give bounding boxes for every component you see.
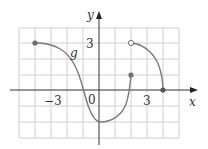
x-tick-label-neg3: −3 — [44, 94, 62, 108]
x-axis-label: x — [189, 95, 196, 109]
y-axis-arrow-icon — [96, 11, 102, 19]
function-graph: y x g 3 −3 0 3 — [0, 0, 208, 149]
x-axis-arrow-icon — [190, 87, 198, 93]
x-tick-label-3: 3 — [143, 94, 151, 108]
y-tick-label-3: 3 — [86, 37, 94, 51]
y-axis-label: y — [86, 8, 94, 22]
closed-endpoint-dot — [128, 72, 133, 77]
axes — [10, 16, 193, 145]
open-endpoint-dot — [128, 40, 133, 45]
closed-endpoint-dot — [32, 40, 37, 45]
x-tick-label-0: 0 — [88, 93, 96, 107]
closed-endpoint-dot — [160, 87, 165, 92]
function-label: g — [70, 46, 78, 60]
